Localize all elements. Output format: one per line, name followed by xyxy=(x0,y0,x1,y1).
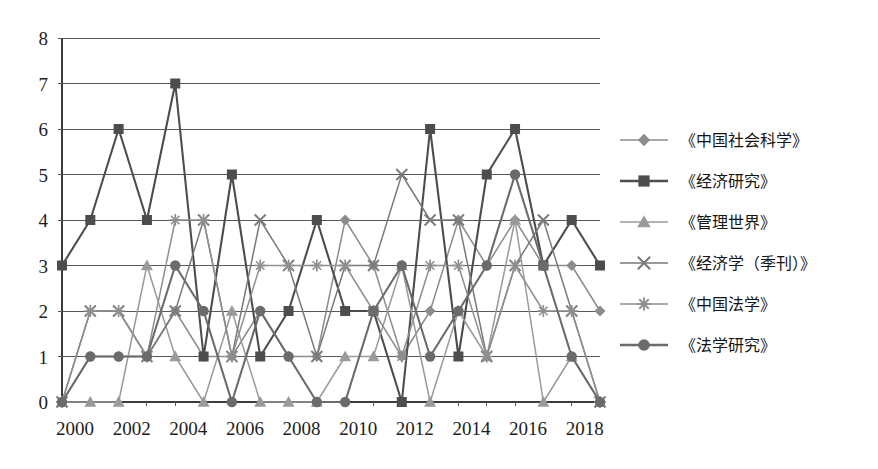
x-tick-label-2004: 2004 xyxy=(169,418,208,439)
marker-circle xyxy=(283,351,293,361)
marker-circle xyxy=(340,397,350,407)
marker-square xyxy=(510,124,520,134)
marker-asterisk xyxy=(566,305,578,317)
x-axis-tick-labels: 2000200220042006200820102012201420162018 xyxy=(56,418,604,439)
legend-label-3: 《经济学（季刊）》 xyxy=(680,254,816,273)
marker-square xyxy=(638,175,649,186)
marker-circle xyxy=(85,351,95,361)
y-tick-label-4: 4 xyxy=(39,210,49,231)
marker-asterisk xyxy=(637,297,650,310)
x-tick-label-2002: 2002 xyxy=(113,418,151,439)
marker-circle xyxy=(510,169,520,179)
marker-asterisk xyxy=(113,305,125,317)
legend-item-4[interactable]: 《中国法学》 xyxy=(620,295,776,314)
marker-asterisk xyxy=(254,260,266,272)
marker-triangle xyxy=(424,396,436,407)
marker-diamond xyxy=(566,260,577,271)
y-tick-label-6: 6 xyxy=(39,119,49,140)
marker-asterisk xyxy=(424,260,436,272)
legend-label-1: 《经济研究》 xyxy=(680,172,776,191)
marker-square xyxy=(312,215,322,225)
legend-item-2[interactable]: 《管理世界》 xyxy=(620,213,776,232)
marker-diamond xyxy=(340,215,351,226)
marker-asterisk xyxy=(452,260,464,272)
line-chart: 012345678 200020022004200620082010201220… xyxy=(0,0,878,469)
y-axis-tick-labels: 012345678 xyxy=(39,28,49,413)
marker-asterisk xyxy=(226,351,238,363)
x-tick-label-2014: 2014 xyxy=(452,418,491,439)
marker-asterisk xyxy=(481,351,493,363)
legend-item-1[interactable]: 《经济研究》 xyxy=(620,172,776,191)
marker-square xyxy=(227,170,237,180)
marker-asterisk xyxy=(311,260,323,272)
marker-square xyxy=(284,306,294,316)
y-tick-label-3: 3 xyxy=(39,256,49,277)
marker-diamond xyxy=(595,306,606,317)
marker-square xyxy=(482,170,492,180)
x-tick-label-2018: 2018 xyxy=(566,418,604,439)
marker-square xyxy=(199,352,209,362)
marker-circle xyxy=(170,260,180,270)
x-tick-label-2010: 2010 xyxy=(339,418,377,439)
marker-circle xyxy=(227,397,237,407)
marker-square xyxy=(567,215,577,225)
marker-asterisk xyxy=(84,305,96,317)
y-tick-label-2: 2 xyxy=(39,301,49,322)
marker-square xyxy=(142,215,152,225)
marker-square xyxy=(114,124,124,134)
marker-circle xyxy=(566,351,576,361)
chart-container: 012345678 200020022004200620082010201220… xyxy=(0,0,878,469)
marker-asterisk xyxy=(396,351,408,363)
marker-triangle xyxy=(226,305,238,316)
marker-square xyxy=(595,261,605,271)
marker-triangle xyxy=(198,396,210,407)
legend-label-4: 《中国法学》 xyxy=(680,295,776,314)
marker-square xyxy=(453,352,463,362)
marker-circle xyxy=(255,306,265,316)
x-tick-label-2008: 2008 xyxy=(283,418,321,439)
marker-triangle xyxy=(537,396,549,407)
marker-circle xyxy=(142,351,152,361)
y-tick-label-5: 5 xyxy=(39,165,49,186)
marker-square xyxy=(425,124,435,134)
legend-label-2: 《管理世界》 xyxy=(680,213,776,232)
legend-item-5[interactable]: 《法学研究》 xyxy=(620,336,776,355)
legend: 《中国社会科学》《经济研究》《管理世界》《经济学（季刊）》《中国法学》《法学研究… xyxy=(620,131,816,355)
marker-asterisk xyxy=(339,260,351,272)
marker-square xyxy=(340,306,350,316)
legend-label-0: 《中国社会科学》 xyxy=(680,131,808,150)
legend-item-0[interactable]: 《中国社会科学》 xyxy=(620,131,808,150)
x-tick-label-2000: 2000 xyxy=(56,418,94,439)
marker-circle xyxy=(57,397,67,407)
marker-square xyxy=(255,352,265,362)
marker-diamond xyxy=(638,134,650,146)
y-tick-label-7: 7 xyxy=(39,74,49,95)
y-tick-label-8: 8 xyxy=(39,28,49,49)
marker-circle xyxy=(312,397,322,407)
legend-label-5: 《法学研究》 xyxy=(680,336,776,355)
legend-item-3[interactable]: 《经济学（季刊）》 xyxy=(620,254,816,273)
marker-circle xyxy=(368,306,378,316)
marker-circle xyxy=(453,306,463,316)
marker-asterisk xyxy=(169,214,181,226)
marker-triangle xyxy=(141,260,153,271)
marker-circle xyxy=(538,260,548,270)
marker-circle xyxy=(198,306,208,316)
marker-square xyxy=(170,79,180,89)
series-layer xyxy=(56,79,606,409)
marker-asterisk xyxy=(198,214,210,226)
marker-circle xyxy=(595,397,605,407)
y-tick-label-1: 1 xyxy=(39,347,49,368)
marker-asterisk xyxy=(509,260,521,272)
marker-circle xyxy=(113,351,123,361)
series-1 xyxy=(57,79,605,408)
y-tick-label-0: 0 xyxy=(39,392,49,413)
marker-asterisk xyxy=(283,260,295,272)
marker-square xyxy=(397,397,407,407)
x-tick-label-2016: 2016 xyxy=(509,418,547,439)
marker-circle xyxy=(397,260,407,270)
x-tick-label-2006: 2006 xyxy=(226,418,264,439)
marker-square xyxy=(57,261,67,271)
marker-triangle xyxy=(169,351,181,362)
marker-asterisk xyxy=(537,305,549,317)
